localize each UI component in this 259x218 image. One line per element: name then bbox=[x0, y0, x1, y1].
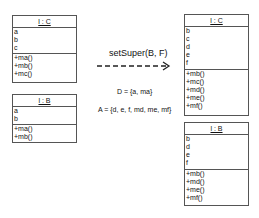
operation: +me() bbox=[186, 94, 248, 102]
attribute: d bbox=[186, 143, 248, 151]
operation: +me() bbox=[186, 186, 248, 194]
operation: +md() bbox=[186, 86, 248, 94]
left-class-c-operations: +ma() +mb() +mc() bbox=[13, 54, 76, 78]
operation: +mb() bbox=[186, 70, 248, 78]
a-set-label: A = {d, e, f, md, me, mf} bbox=[98, 106, 171, 113]
attribute: a bbox=[14, 107, 76, 115]
attribute: f bbox=[186, 59, 248, 67]
attribute: b bbox=[186, 135, 248, 143]
operation: +mf() bbox=[186, 194, 248, 202]
right-class-b-title: l : B bbox=[185, 123, 248, 135]
operation: +mb() bbox=[14, 62, 76, 70]
left-class-b-title: l : B bbox=[13, 95, 76, 107]
left-class-c-box: l : C a b c +ma() +mb() +mc() bbox=[12, 15, 77, 83]
operation: +mc() bbox=[186, 78, 248, 86]
left-class-b-attributes: a b bbox=[13, 107, 76, 125]
operation-label: setSuper(B, F) bbox=[109, 48, 168, 58]
operation: +ma() bbox=[14, 125, 76, 133]
dashed-arrow-icon bbox=[95, 60, 175, 72]
right-class-c-title: l : C bbox=[185, 15, 248, 27]
right-class-b-box: l : B b d e f +mb() +md() +me() +mf() bbox=[184, 122, 249, 206]
attribute: a bbox=[14, 28, 76, 36]
left-class-c-attributes: a b c bbox=[13, 28, 76, 54]
attribute: b bbox=[186, 27, 248, 35]
operation: +mc() bbox=[14, 70, 76, 78]
right-class-b-operations: +mb() +md() +me() +mf() bbox=[185, 170, 248, 202]
attribute: b bbox=[14, 115, 76, 123]
attribute: b bbox=[14, 36, 76, 44]
operation: +ma() bbox=[14, 54, 76, 62]
left-class-b-box: l : B a b +ma() +mb() bbox=[12, 94, 77, 143]
operation: +md() bbox=[186, 178, 248, 186]
attribute: f bbox=[186, 159, 248, 167]
operation: +mb() bbox=[14, 133, 76, 141]
attribute: e bbox=[186, 51, 248, 59]
right-class-c-box: l : C b c d e f +mb() +mc() +md() +me() … bbox=[184, 14, 249, 116]
right-class-c-attributes: b c d e f bbox=[185, 27, 248, 70]
operation: +mb() bbox=[186, 170, 248, 178]
d-set-label: D = {a, ma} bbox=[117, 88, 152, 95]
right-class-c-operations: +mb() +mc() +md() +me() +mf() bbox=[185, 70, 248, 110]
left-class-b-operations: +ma() +mb() bbox=[13, 125, 76, 141]
left-class-c-title: l : C bbox=[13, 16, 76, 28]
attribute: c bbox=[186, 35, 248, 43]
attribute: c bbox=[14, 44, 76, 52]
right-class-b-attributes: b d e f bbox=[185, 135, 248, 170]
attribute: e bbox=[186, 151, 248, 159]
operation: +mf() bbox=[186, 102, 248, 110]
attribute: d bbox=[186, 43, 248, 51]
